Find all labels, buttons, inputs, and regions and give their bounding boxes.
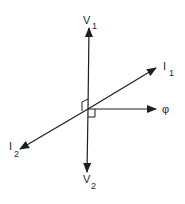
label-phi: φ (162, 103, 169, 115)
label-i1: I 1 (163, 60, 174, 78)
svg-text:1: 1 (92, 21, 97, 31)
vector-i2 (20, 109, 88, 149)
svg-text:2: 2 (14, 149, 19, 159)
svg-text:V: V (83, 14, 91, 26)
svg-text:2: 2 (91, 181, 96, 191)
vector-v2 (87, 110, 88, 172)
svg-text:I: I (9, 140, 12, 152)
right-angle-marker-lower (88, 109, 95, 117)
svg-text:φ: φ (162, 103, 169, 115)
vector-v1 (88, 28, 89, 110)
svg-text:I: I (163, 60, 166, 72)
label-v2: V 2 (83, 173, 96, 191)
svg-text:V: V (83, 173, 91, 185)
vector-i1 (88, 68, 156, 109)
label-v1: V 1 (83, 14, 97, 31)
label-i2: I 2 (9, 140, 19, 159)
svg-text:1: 1 (169, 68, 174, 78)
phasor-diagram: V 1 V 2 I 1 I 2 φ (0, 0, 185, 204)
